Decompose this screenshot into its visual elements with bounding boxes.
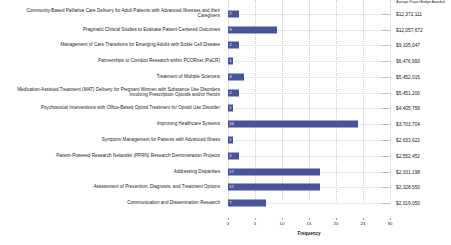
category-label: Pragmatic Clinical Studies to Evaluate P… (4, 27, 220, 33)
row-rule (228, 140, 390, 141)
category-label: Addressing Disparities (4, 169, 220, 175)
leader-line (382, 108, 390, 109)
budget-value: $12,057,672 (396, 27, 423, 32)
bar[interactable] (228, 26, 277, 33)
bar-row: 9 (228, 22, 390, 38)
budget-value: $2,331,198 (396, 169, 420, 174)
leader-line (382, 45, 390, 46)
leader-line (382, 172, 390, 173)
budget-row: $9,105,047 (390, 38, 451, 54)
bar-row: 1 (228, 101, 390, 117)
bar-value-label: 2 (229, 12, 231, 16)
leader-line (382, 156, 390, 157)
budget-value: $5,452,015 (396, 74, 420, 79)
x-tick-mark (336, 218, 337, 220)
category-label-row: Community-Based Palliative Care Delivery… (0, 6, 224, 22)
category-label-row: Improving Healthcare Systems (0, 116, 224, 132)
budget-value: $2,552,452 (396, 153, 420, 158)
category-label: Symptom Management for Patients with Adv… (4, 137, 220, 143)
category-label-row: Pragmatic Clinical Studies to Evaluate P… (0, 22, 224, 38)
budget-row: $2,552,452 (390, 148, 451, 164)
budget-value: $4,405,758 (396, 106, 420, 111)
leader-line (382, 203, 390, 204)
bar-row: 1 (228, 53, 390, 69)
budget-row: $2,331,198 (390, 164, 451, 180)
budget-row: $2,328,550 (390, 179, 451, 195)
leader-line (382, 124, 390, 125)
category-label: Assessment of Prevention, Diagnosis, and… (4, 185, 220, 191)
bar-value-label: 1 (229, 138, 231, 142)
row-rule (228, 45, 390, 46)
x-tick-label: 10 (280, 221, 285, 226)
category-label-row: Psychosocial Interventions with Office-B… (0, 101, 224, 117)
category-label-row: Assessment of Prevention, Diagnosis, and… (0, 179, 224, 195)
budget-row: $4,405,758 (390, 101, 451, 117)
leader-line (382, 187, 390, 188)
bar-value-label: 9 (229, 27, 231, 31)
category-label: Community-Based Palliative Care Delivery… (4, 8, 220, 19)
bar-value-label: 17 (229, 185, 234, 189)
category-label-row: Patient-Powered Research Networks (PPRN)… (0, 148, 224, 164)
budget-row: $5,451,200 (390, 85, 451, 101)
budget-value: $2,328,550 (396, 185, 420, 190)
bar-row: 1 (228, 132, 390, 148)
bar-value-label: 2 (229, 154, 231, 158)
horizontal-bar-chart: Community-Based Palliative Care Delivery… (0, 0, 451, 245)
leader-line (382, 93, 390, 94)
bar-value-label: 2 (229, 91, 231, 95)
bar-value-label: 1 (229, 106, 231, 110)
x-tick-mark (390, 218, 391, 220)
x-axis-title: Frequency (228, 231, 390, 236)
budget-row: $2,633,622 (390, 132, 451, 148)
x-tick-label: 25 (361, 221, 366, 226)
plot-inner: 2921321241217177 (228, 0, 390, 218)
category-label-row: Medication-Assisted Treatment (MAT) Deli… (0, 85, 224, 101)
budget-row: $6,476,993 (390, 53, 451, 69)
bar-row: 17 (228, 164, 390, 180)
x-tick-mark (255, 218, 256, 220)
category-label-row: Management of Care Transitions for Emerg… (0, 38, 224, 54)
category-label: Medication-Assisted Treatment (MAT) Deli… (4, 87, 220, 98)
category-label-row: Symptom Management for Patients with Adv… (0, 132, 224, 148)
bar-value-label: 7 (229, 201, 231, 205)
category-label: Psychosocial Interventions with Office-B… (4, 106, 220, 112)
category-label-row: Communication and Dissemination Research (0, 195, 224, 211)
x-tick-label: 30 (388, 221, 393, 226)
x-tick-mark (363, 218, 364, 220)
category-label: Partnerships to Conduct Research within … (4, 58, 220, 64)
row-rule (228, 14, 390, 15)
category-labels-column: Community-Based Palliative Care Delivery… (0, 0, 224, 218)
bar[interactable] (228, 168, 320, 175)
budget-value: $2,633,622 (396, 138, 420, 143)
plot-area: 2921321241217177 (228, 0, 390, 218)
category-label-row: Partnerships to Conduct Research within … (0, 53, 224, 69)
x-tick-label: 20 (334, 221, 339, 226)
bar-row: 2 (228, 85, 390, 101)
budget-column-header: Average Project Budget Awarded (390, 1, 451, 5)
leader-line (382, 30, 390, 31)
row-rule (228, 156, 390, 157)
category-label-row: Addressing Disparities (0, 164, 224, 180)
bar-row: 7 (228, 195, 390, 211)
bar[interactable] (228, 200, 266, 207)
budget-value: $2,019,050 (396, 201, 420, 206)
leader-line (382, 14, 390, 15)
budget-row: $3,703,704 (390, 116, 451, 132)
leader-line (382, 140, 390, 141)
budget-value: $9,105,047 (396, 43, 420, 48)
x-axis: Frequency 051015202530 (228, 218, 390, 245)
row-rule (228, 108, 390, 109)
category-label: Communication and Dissemination Research (4, 200, 220, 206)
category-label: Patient-Powered Research Networks (PPRN)… (4, 153, 220, 159)
bar[interactable] (228, 184, 320, 191)
x-tick-mark (228, 218, 229, 220)
bar-row: 2 (228, 148, 390, 164)
bar[interactable] (228, 121, 358, 128)
row-rule (228, 61, 390, 62)
budget-row: $12,372,111 (390, 6, 451, 22)
category-label: Management of Care Transitions for Emerg… (4, 43, 220, 49)
bar-row: 2 (228, 6, 390, 22)
x-tick-label: 15 (307, 221, 312, 226)
x-tick-mark (282, 218, 283, 220)
bar-value-label: 3 (229, 75, 231, 79)
